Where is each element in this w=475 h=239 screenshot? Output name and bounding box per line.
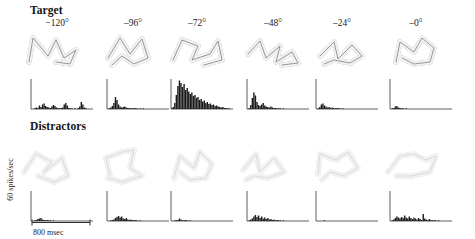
psth-target-96 bbox=[105, 78, 171, 112]
distractors-row-title: Distractors bbox=[30, 120, 86, 132]
angle-label-col-2: –96° bbox=[124, 18, 142, 28]
wireframe-object-distractor-4 bbox=[240, 146, 298, 186]
angle-label-col-6: –0° bbox=[409, 18, 422, 28]
wireframe-object-distractor-5 bbox=[312, 146, 370, 186]
wireframe-object-target-48 bbox=[246, 32, 304, 72]
wireframe-object-target-24 bbox=[316, 32, 374, 72]
angle-label-col-3: –72° bbox=[188, 18, 206, 28]
neural-response-figure: Target Distractors −120° –96° –72° –48° … bbox=[0, 0, 475, 239]
psth-distractor-6 bbox=[388, 190, 454, 224]
wireframe-object-distractor-1 bbox=[22, 146, 80, 186]
angle-label-col-5: –24° bbox=[333, 18, 351, 28]
wireframe-object-distractor-3 bbox=[170, 146, 228, 186]
wireframe-object-target-0 bbox=[390, 32, 448, 72]
psth-distractor-4 bbox=[245, 190, 311, 224]
x-axis-label: 800 msec bbox=[33, 228, 63, 237]
psth-distractor-2 bbox=[105, 190, 171, 224]
wireframe-object-distractor-2 bbox=[100, 146, 158, 186]
wireframe-object-distractor-6 bbox=[386, 146, 444, 186]
psth-target-120 bbox=[29, 78, 95, 112]
psth-target-72 bbox=[169, 78, 235, 112]
wireframe-object-target-96 bbox=[104, 32, 162, 72]
psth-distractor-5 bbox=[314, 190, 380, 224]
x-axis-scale-bar bbox=[31, 219, 91, 226]
angle-label-col-4: –48° bbox=[264, 18, 282, 28]
wireframe-object-target-72 bbox=[170, 32, 228, 72]
wireframe-object-target-120 bbox=[26, 32, 84, 72]
psth-target-48 bbox=[245, 78, 311, 112]
angle-label-col-1: −120° bbox=[45, 18, 68, 28]
target-row-title: Target bbox=[30, 4, 63, 16]
psth-target-24 bbox=[314, 78, 380, 112]
y-axis-label: 60 spikes/sec bbox=[6, 152, 15, 208]
psth-target-0 bbox=[388, 78, 454, 112]
psth-distractor-3 bbox=[169, 190, 235, 224]
